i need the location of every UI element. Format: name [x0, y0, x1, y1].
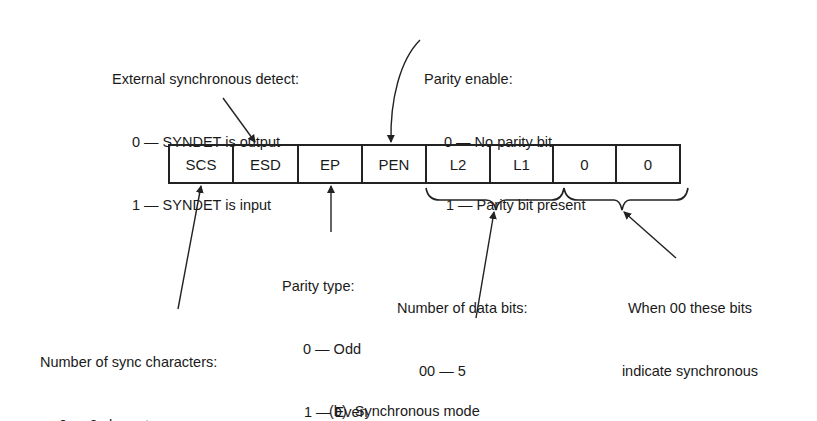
sync-bits-brace: [564, 188, 688, 210]
scs-title: Number of sync characters:: [40, 352, 217, 373]
ep-option-0: 0 — Odd: [282, 339, 368, 360]
data-bits-annotation: Number of data bits: 00 — 5 01 — 6 10 — …: [397, 256, 528, 421]
scs-option-0: 0 — 2 characters: [40, 415, 217, 421]
scs-annotation: Number of sync characters: 0 — 2 charact…: [40, 310, 217, 421]
pen-arrow: [391, 40, 420, 142]
figure-caption: (b) Synchronous mode: [329, 403, 480, 419]
scs-arrow: [178, 186, 201, 309]
data-bits-row: 00 — 5: [397, 361, 528, 382]
esd-arrow: [223, 98, 255, 142]
ep-annotation: Parity type: 0 — Odd 1 — Even: [282, 234, 368, 421]
sync-mode-line-2: indicate synchronous: [600, 361, 780, 382]
data-bits-brace: [426, 188, 564, 210]
sync-mode-line-1: When 00 these bits: [600, 298, 780, 319]
data-bits-title: Number of data bits:: [397, 298, 528, 319]
sync-mode-annotation: When 00 these bits indicate synchronous …: [600, 256, 780, 421]
ep-title: Parity type:: [282, 276, 368, 297]
sync-mode-arrow: [624, 212, 676, 258]
